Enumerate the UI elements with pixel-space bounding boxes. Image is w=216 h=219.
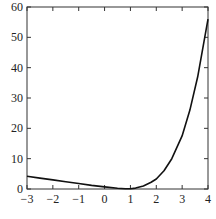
series-line <box>27 19 208 189</box>
chart: −3−2−1012340102030405060 <box>0 0 216 219</box>
y-tick-label: 50 <box>11 30 23 44</box>
y-tick-label: 20 <box>11 121 23 135</box>
x-tick-label: 3 <box>179 192 185 206</box>
y-tick-label: 30 <box>11 91 23 105</box>
y-tick-label: 60 <box>11 0 23 14</box>
plot-border <box>27 7 208 189</box>
tick-labels: −3−2−1012340102030405060 <box>11 0 211 206</box>
y-tick-label: 0 <box>17 182 23 196</box>
data-series <box>27 19 208 189</box>
axis-ticks <box>27 7 208 189</box>
x-tick-label: 0 <box>102 192 108 206</box>
y-tick-label: 10 <box>11 152 23 166</box>
x-tick-label: 4 <box>205 192 211 206</box>
x-tick-label: 1 <box>127 192 133 206</box>
y-tick-label: 40 <box>11 61 23 75</box>
x-tick-label: 2 <box>153 192 159 206</box>
x-tick-label: −1 <box>72 192 85 206</box>
plot-frame <box>27 7 208 189</box>
x-tick-label: −2 <box>46 192 59 206</box>
